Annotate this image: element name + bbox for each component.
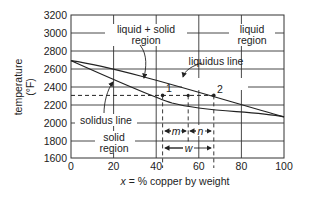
point-2-label: 2 [217,83,223,95]
x-tick-labels: 0 20 40 60 80 100 [68,160,293,172]
composition-drops [163,95,214,168]
svg-text:2200: 2200 [44,99,68,111]
svg-text:80: 80 [236,160,248,172]
point-1-label: 1 [166,82,172,94]
point-2-marker [212,94,216,98]
liquid-region-label-2: region [237,34,266,46]
m-label: m [172,125,181,137]
svg-text:60: 60 [193,160,205,172]
phase-diagram: liquid + solid region liquid region liqu… [0,0,310,198]
svg-text:20: 20 [108,160,120,172]
svg-text:1600: 1600 [44,152,68,164]
solid-region-label-2: region [99,142,128,154]
svg-text:3000: 3000 [44,27,68,39]
y-axis-unit-label: (°F) [24,78,36,96]
solidus-line-label: solidus line [80,114,132,126]
point-mid-marker [187,94,190,97]
n-label: n [198,125,204,137]
svg-text:1800: 1800 [44,135,68,147]
y-axis-label: temperature [12,59,24,116]
liquid-solid-region-label-2: region [131,34,160,46]
liquidus-line-label: liquidus line [189,55,244,67]
point-1-marker [161,94,165,98]
svg-text:3200: 3200 [44,9,68,21]
svg-text:2800: 2800 [44,45,68,57]
x-axis-label: x = % copper by weight [120,175,230,187]
svg-text:2400: 2400 [44,81,68,93]
svg-text:2600: 2600 [44,63,68,75]
svg-text:40: 40 [150,160,162,172]
y-tick-labels: 1600 1800 2000 2200 2400 2600 2800 3000 … [44,9,68,164]
svg-text:100: 100 [275,160,293,172]
svg-text:0: 0 [68,160,74,172]
svg-text:2000: 2000 [44,117,68,129]
